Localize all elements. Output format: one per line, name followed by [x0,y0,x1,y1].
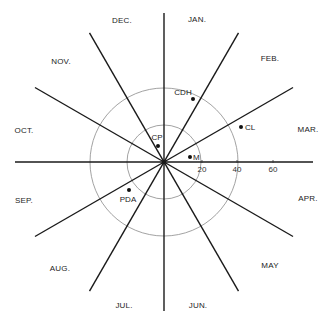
point-marker [127,188,131,192]
month-label: JUN. [189,301,208,310]
scale-tick-label: 20 [198,165,207,174]
month-label: SEP. [15,196,33,205]
month-label: MAR. [298,125,319,134]
data-point-cp: CP [151,133,162,148]
data-point-pda: PDA [120,188,137,204]
month-label: MAY [261,261,279,270]
point-label: CL [245,123,256,132]
diagram-canvas: 204060 JAN.FEB.MAR.APR.MAYJUN.JUL.AUG.SE… [0,0,328,324]
point-marker [191,97,195,101]
point-label: CDH [174,88,192,97]
point-label: CP [151,133,162,142]
point-marker [156,144,160,148]
month-label: AUG. [50,264,70,273]
data-point-m: M [188,153,200,162]
point-marker [239,125,243,129]
data-point-cl: CL [239,123,256,132]
point-marker [188,155,192,159]
month-label: NOV. [51,57,71,66]
month-label: OCT. [14,126,33,135]
data-point-cdh: CDH [174,88,195,101]
month-polar-diagram: 204060 JAN.FEB.MAR.APR.MAYJUN.JUL.AUG.SE… [0,0,328,324]
point-label: M [193,153,200,162]
data-points: CDHCLMCPPDA [120,88,256,204]
scale-tick-label: 60 [269,165,278,174]
month-label: APR. [298,194,317,203]
point-label: PDA [120,195,137,204]
month-label: FEB. [261,54,280,63]
month-label: DEC. [112,16,132,25]
scale-tick-label: 40 [233,165,242,174]
center-hub [162,160,166,164]
month-label: JAN. [188,15,206,24]
month-label: JUL. [115,301,132,310]
